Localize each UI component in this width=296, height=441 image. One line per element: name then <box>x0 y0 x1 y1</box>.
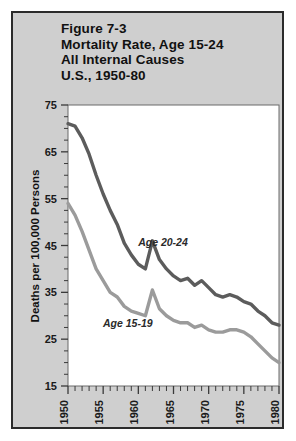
series-annotation: Age 20-24 <box>137 236 188 248</box>
y-tick-label: 15 <box>45 380 57 392</box>
y-axis: 15253545556575 <box>45 99 68 392</box>
x-tick-label: 1975 <box>234 400 246 424</box>
y-tick-label: 65 <box>45 146 57 158</box>
series-annotation: Age 15-19 <box>102 317 153 329</box>
y-axis-title: Deaths per 100,000 Persons <box>29 170 41 323</box>
figure-frame: Figure 7-3 Mortality Rate, Age 15-24 All… <box>11 11 284 429</box>
x-tick-label: 1970 <box>199 400 211 424</box>
mortality-rate-line-chart: 15253545556575 1950195519601965197019751… <box>13 13 286 431</box>
y-tick-label: 55 <box>45 193 57 205</box>
y-tick-label: 25 <box>45 333 57 345</box>
x-tick-label: 1950 <box>58 400 70 424</box>
x-tick-label: 1955 <box>93 400 105 424</box>
y-tick-label: 35 <box>45 286 57 298</box>
x-axis: 1950195519601965197019751980 <box>58 386 281 424</box>
y-tick-label: 45 <box>45 240 57 252</box>
x-tick-label: 1980 <box>269 400 281 424</box>
x-tick-label: 1960 <box>128 400 140 424</box>
x-tick-label: 1965 <box>164 400 176 424</box>
y-tick-label: 75 <box>45 99 57 111</box>
